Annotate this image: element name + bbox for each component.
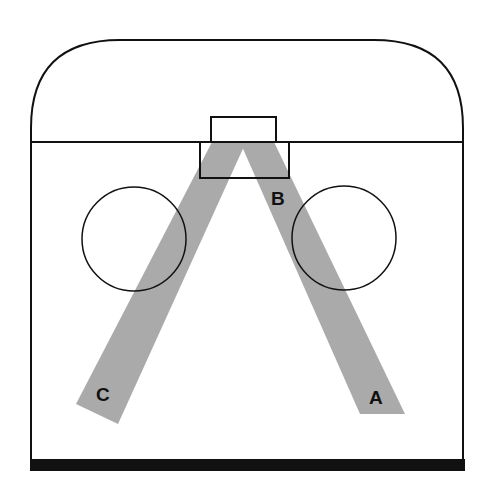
diagram-canvas (0, 0, 490, 496)
label-b: B (271, 189, 285, 208)
label-a: A (369, 388, 383, 407)
enclosure-top-arc (31, 40, 463, 142)
floor-bar (30, 459, 465, 471)
label-c: C (96, 385, 110, 404)
beam-right-a (240, 142, 405, 414)
source-upper-box (211, 117, 276, 142)
